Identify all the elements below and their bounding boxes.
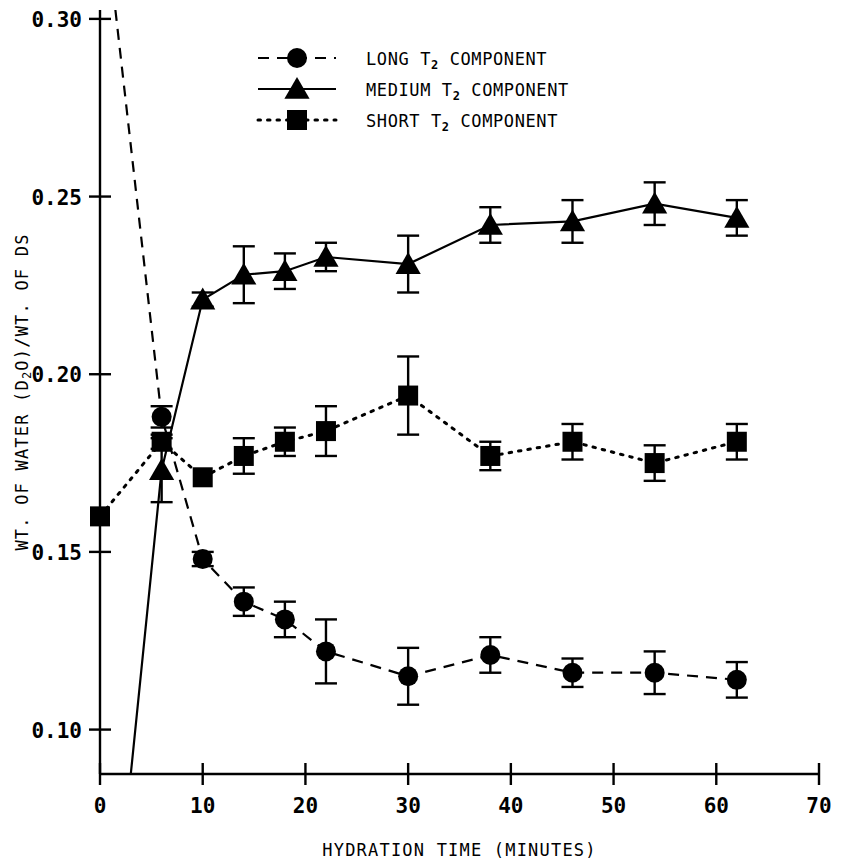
data-point-circle-marker-circle — [398, 666, 418, 686]
chart-canvas: 0.100.150.200.250.30010203040506070HYDRA… — [0, 0, 857, 863]
data-point-square-marker-square — [398, 386, 418, 406]
data-point-square-marker-square — [645, 453, 665, 473]
x-axis-title-text: HYDRATION TIME (MINUTES) — [322, 840, 596, 860]
data-point-triangle-marker-triangle — [149, 458, 174, 480]
data-point-circle-marker-circle — [562, 663, 582, 683]
data-point-square-marker-square — [727, 432, 747, 452]
data-point-circle-marker-circle — [480, 645, 500, 665]
data-point-square-marker-square — [275, 432, 295, 452]
data-point-square-marker-square — [316, 421, 336, 441]
x-tick-label: 70 — [806, 794, 831, 818]
x-tick-label: 60 — [704, 794, 729, 818]
x-tick-label: 40 — [498, 794, 523, 818]
x-tick-label: 30 — [395, 794, 420, 818]
x-axis-ticks: 010203040506070 — [94, 763, 832, 818]
data-point-triangle-marker-triangle — [190, 288, 215, 310]
legend: LONG T2 COMPONENTMEDIUM T2 COMPONENTSHOR… — [258, 48, 569, 134]
legend-label-square: SHORT T2 COMPONENT — [366, 111, 558, 134]
data-point-square-marker-square — [152, 432, 172, 452]
data-point-triangle-marker-triangle — [642, 192, 667, 214]
data-point-circle-marker-circle — [234, 592, 254, 612]
data-point-circle-marker-circle — [275, 609, 295, 629]
data-point-square-marker-square — [480, 446, 500, 466]
chart-figure: 0.100.150.200.250.30010203040506070HYDRA… — [0, 0, 857, 863]
x-axis-title: HYDRATION TIME (MINUTES) — [322, 840, 596, 860]
data-point-square-marker-square — [90, 506, 110, 526]
y-tick-label: 0.25 — [31, 186, 82, 210]
data-point-triangle-marker-triangle — [313, 245, 338, 267]
y-tick-label: 0.30 — [31, 8, 82, 32]
y-axis-title-text: WT. OF WATER (D2O)/WT. OF DS — [12, 233, 34, 550]
data-point-circle-marker-circle — [193, 549, 213, 569]
x-tick-label: 0 — [94, 794, 107, 818]
series-line-square — [100, 396, 737, 517]
legend-label-circle: LONG T2 COMPONENT — [366, 49, 547, 72]
y-tick-label: 0.15 — [31, 541, 82, 565]
series-line-triangle — [131, 204, 737, 774]
data-point-circle-marker-circle — [152, 407, 172, 427]
series-square — [90, 356, 748, 526]
x-tick-label: 10 — [190, 794, 215, 818]
x-tick-label: 50 — [601, 794, 626, 818]
legend-marker-square-marker-square — [287, 110, 307, 130]
series-triangle — [131, 182, 750, 774]
data-point-circle-marker-circle — [645, 663, 665, 683]
data-point-circle-marker-circle — [316, 641, 336, 661]
data-point-square-marker-square — [234, 446, 254, 466]
x-tick-label: 20 — [293, 794, 318, 818]
data-point-triangle-marker-triangle — [272, 259, 297, 281]
legend-label-triangle: MEDIUM T2 COMPONENT — [366, 80, 569, 103]
y-axis-title: WT. OF WATER (D2O)/WT. OF DS — [12, 233, 34, 550]
data-point-square-marker-square — [562, 432, 582, 452]
data-point-square-marker-square — [193, 467, 213, 487]
data-point-circle-marker-circle — [727, 670, 747, 690]
y-tick-label: 0.20 — [31, 363, 82, 387]
legend-marker-circle-marker-circle — [287, 48, 307, 68]
y-tick-label: 0.10 — [31, 719, 82, 743]
